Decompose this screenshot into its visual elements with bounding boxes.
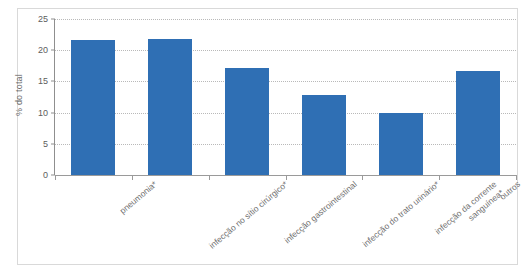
- category-label: outros: [497, 179, 522, 202]
- bar[interactable]: [456, 71, 500, 175]
- bars-layer: [55, 19, 516, 175]
- category-label-line: infecção do trato urinário*: [361, 179, 442, 249]
- bar[interactable]: [71, 40, 115, 175]
- category-label: infecção da correntesanguínea*: [433, 179, 506, 245]
- y-tick-label: 20: [38, 45, 48, 55]
- bar[interactable]: [302, 95, 346, 175]
- bar-slot: [209, 19, 286, 175]
- category-label-line: pneumonia*: [118, 179, 159, 216]
- category-label-line: infecção gastrointestinal: [282, 179, 358, 245]
- y-tick-label: 5: [43, 139, 48, 149]
- category-labels: pneumonia*infecção no sítio cirúrgico*in…: [55, 175, 516, 263]
- category-label-line: infecção no sítio cirúrgico*: [207, 179, 289, 250]
- bar-slot: [362, 19, 439, 175]
- bar-slot: [132, 19, 209, 175]
- bar-slot: [439, 19, 516, 175]
- y-tick-label: 25: [38, 14, 48, 24]
- bar[interactable]: [225, 68, 269, 175]
- y-axis-title: % do total: [14, 60, 28, 130]
- bar[interactable]: [148, 39, 192, 175]
- category-label: infecção gastrointestinal: [282, 179, 359, 246]
- bar-chart: % do total 0510152025 pneumonia*infecção…: [0, 0, 532, 278]
- y-tick-label: 10: [38, 108, 48, 118]
- bar-slot: [55, 19, 132, 175]
- category-label: infecção no sítio cirúrgico*: [207, 179, 290, 251]
- plot-area: 0510152025: [55, 19, 516, 175]
- plot-inner: 0510152025: [55, 19, 516, 175]
- bar-slot: [286, 19, 363, 175]
- category-label: pneumonia*: [118, 179, 160, 216]
- y-tick-label: 0: [43, 170, 48, 180]
- bar[interactable]: [379, 113, 423, 175]
- category-label: infecção do trato urinário*: [361, 179, 442, 249]
- y-tick-label: 15: [38, 76, 48, 86]
